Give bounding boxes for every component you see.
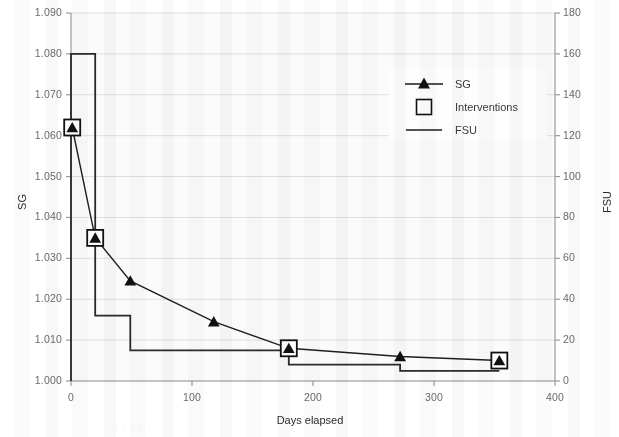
legend-item-sg: SG <box>403 74 471 94</box>
legend-label-interventions: Interventions <box>455 101 518 113</box>
series-sg-line <box>72 127 499 360</box>
legend-item-interventions: Interventions <box>403 97 518 117</box>
chart-figure: 1.0001.0101.0201.0301.0401.0501.0601.070… <box>0 0 619 437</box>
legend-label-sg: SG <box>455 78 471 90</box>
interventions-square-icon <box>403 98 445 116</box>
chart-legend: SG Interventions FSU <box>389 68 547 142</box>
legend-label-fsu: FSU <box>455 124 477 136</box>
sg-triangle-icon <box>403 75 445 93</box>
legend-item-fsu: FSU <box>403 120 477 140</box>
chart-canvas <box>0 0 619 437</box>
fsu-line-icon <box>403 121 445 139</box>
series-sg-markers <box>66 122 505 365</box>
